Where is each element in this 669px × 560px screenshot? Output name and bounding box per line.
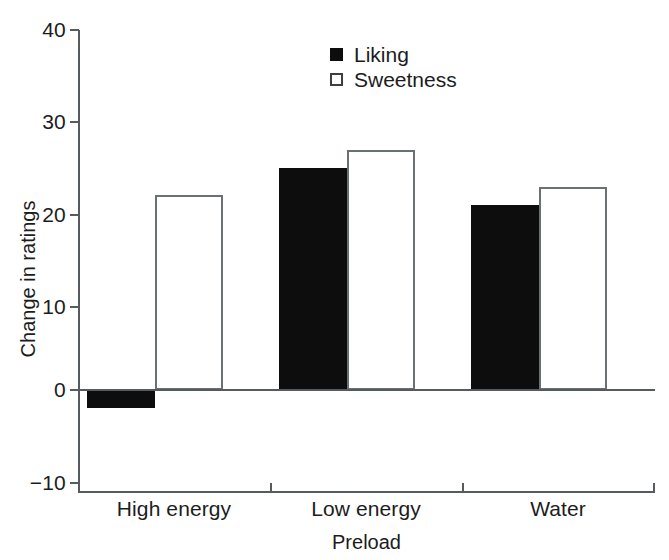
y-tick-label-10: 10 (4, 296, 66, 317)
y-tick-label-0: 0 (4, 379, 66, 400)
bar-sweetness-low-energy (347, 150, 415, 390)
legend-label-liking: Liking (354, 44, 409, 65)
legend-label-sweetness: Sweetness (354, 69, 457, 90)
x-tick-mark-0 (78, 483, 80, 493)
bar-liking-high-energy (87, 389, 155, 408)
y-tick-label-20: 20 (4, 204, 66, 225)
bar-liking-water (471, 205, 539, 390)
bar-sweetness-water (539, 187, 607, 390)
x-tick-mark-3 (653, 483, 655, 493)
filled-square-icon (330, 48, 343, 61)
zero-baseline (78, 389, 655, 391)
open-square-icon (330, 73, 343, 86)
chart-legend: Liking Sweetness (330, 42, 457, 92)
x-category-label-high-energy: High energy (78, 497, 270, 521)
y-tick-label-30: 30 (4, 111, 66, 132)
x-category-label-water: Water (462, 497, 654, 521)
x-axis-title: Preload (78, 531, 655, 553)
legend-item-liking: Liking (330, 42, 457, 67)
legend-item-sweetness: Sweetness (330, 67, 457, 92)
x-tick-mark-2 (462, 483, 464, 493)
bar-liking-low-energy (279, 168, 347, 390)
bar-chart-figure: Change in ratings 40 30 20 10 0 −10 (0, 0, 669, 560)
y-tick-label-minus-10: −10 (4, 472, 66, 493)
y-tick-label-40: 40 (4, 19, 66, 40)
x-category-label-low-energy: Low energy (270, 497, 462, 521)
bar-sweetness-high-energy (155, 195, 223, 390)
plot-area (78, 30, 655, 492)
x-tick-mark-1 (270, 483, 272, 493)
